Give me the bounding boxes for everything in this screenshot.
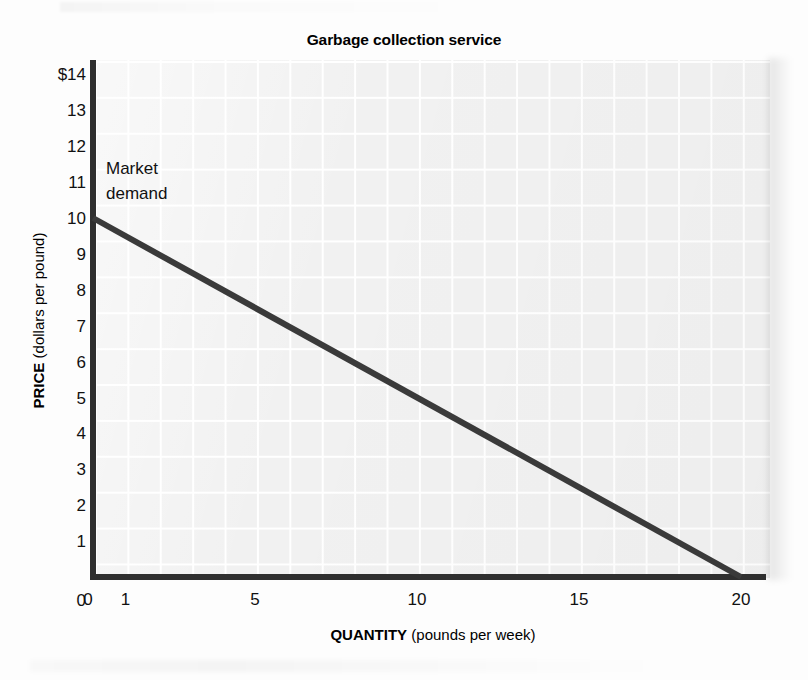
- x-tick-label: 15: [549, 591, 609, 608]
- x-axis-title-units: (pounds per week): [407, 626, 535, 643]
- x-tick-label: 20: [711, 591, 771, 608]
- x-axis-title: QUANTITY (pounds per week): [96, 626, 770, 643]
- x-axis-title-bold: QUANTITY: [330, 626, 407, 643]
- y-axis-title: PRICE (dollars per pound): [30, 171, 47, 471]
- figure-container: Garbage collection service $141312111098…: [0, 0, 808, 680]
- x-tick-label: 1: [95, 591, 155, 608]
- market-demand-annotation: Market demand: [106, 156, 167, 206]
- x-tick-label: 10: [387, 591, 447, 608]
- y-axis-title-units: (dollars per pound): [30, 233, 47, 363]
- x-tick-label: 5: [225, 591, 285, 608]
- demand-curve-layer: [0, 0, 808, 680]
- y-axis-title-bold: PRICE: [30, 363, 47, 409]
- market-demand-line: [93, 218, 741, 577]
